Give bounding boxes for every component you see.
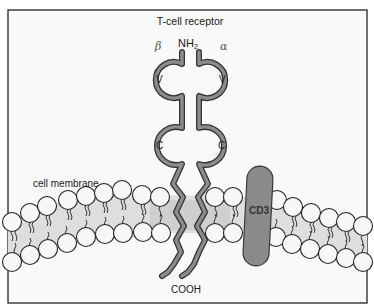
c-terminus-label: COOH: [171, 285, 201, 295]
diagram-frame: [8, 10, 367, 303]
cd3-protein: [242, 165, 273, 266]
beta-constant-domain-label: C: [156, 141, 163, 151]
cd3-label: CD3: [249, 206, 269, 216]
alpha-variable-domain-label: V: [219, 75, 226, 85]
beta-chain-label: β: [155, 41, 161, 52]
alpha-chain-label: α: [220, 41, 227, 52]
n-terminus-text: NH: [178, 37, 194, 49]
alpha-constant-domain-label: C: [218, 141, 225, 151]
beta-variable-domain-label: V: [156, 75, 163, 85]
n-terminus-subscript: 2: [194, 43, 198, 50]
diagram-title: T-cell receptor: [0, 16, 374, 27]
cell-membrane-label: cell membrane: [33, 179, 99, 189]
n-terminus-label: NH2: [178, 38, 198, 50]
